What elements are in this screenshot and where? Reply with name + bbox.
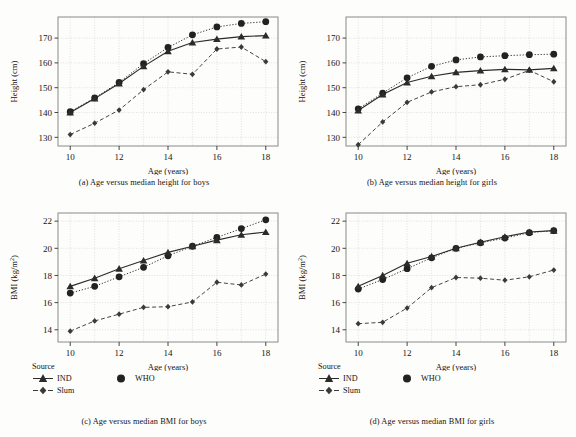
svg-text:16: 16 — [212, 348, 222, 358]
legend-label-who: WHO — [135, 374, 155, 383]
svg-text:Height (cm): Height (cm) — [297, 60, 307, 102]
svg-text:BMI (kg/m2): BMI (kg/m2) — [297, 255, 307, 300]
svg-text:18: 18 — [43, 271, 53, 281]
svg-text:22: 22 — [43, 216, 52, 226]
svg-text:14: 14 — [164, 348, 174, 358]
legend-item-ind[interactable]: IND — [318, 372, 396, 384]
legend-title: Source — [32, 362, 155, 371]
svg-text:20: 20 — [43, 244, 53, 254]
chart-b-svg: 1301401501601701012141618Age (years)Heig… — [288, 0, 576, 175]
svg-text:130: 130 — [39, 133, 53, 143]
circle-marker-icon — [110, 373, 132, 384]
svg-text:18: 18 — [261, 348, 271, 358]
svg-text:Age (years): Age (years) — [148, 166, 188, 175]
diamond-marker-icon — [318, 385, 340, 396]
panel-c-caption: (c) Age versus median BMI for boys — [0, 417, 288, 426]
svg-text:140: 140 — [39, 108, 53, 118]
chart-c-svg: 14161820221012141618Age (years)BMI (kg/m… — [0, 196, 288, 371]
legend-item-slum[interactable]: Slum — [318, 384, 396, 396]
legend-left: Source IND Slum — [32, 362, 155, 396]
svg-text:18: 18 — [549, 152, 559, 162]
legend-item-ind[interactable]: IND — [32, 372, 110, 384]
triangle-marker-icon — [32, 373, 54, 384]
legend-label-ind: IND — [57, 374, 72, 383]
triangle-marker-icon — [318, 373, 340, 384]
svg-text:12: 12 — [115, 152, 124, 162]
svg-text:160: 160 — [327, 58, 341, 68]
svg-text:12: 12 — [403, 348, 412, 358]
panel-b-caption: (b) Age versus median height for girls — [288, 178, 576, 187]
svg-text:16: 16 — [500, 348, 510, 358]
svg-text:150: 150 — [39, 83, 53, 93]
svg-text:14: 14 — [452, 152, 462, 162]
svg-text:14: 14 — [452, 348, 462, 358]
svg-text:10: 10 — [66, 348, 76, 358]
panel-d-caption: (d) Age versus median BMI for girls — [288, 417, 576, 426]
chart-a-svg: 1301401501601701012141618Age (years)Heig… — [0, 0, 288, 175]
legend-title: Source — [318, 362, 441, 371]
svg-text:16: 16 — [43, 298, 53, 308]
figure-four-panel-growth-charts: 1301401501601701012141618Age (years)Heig… — [0, 0, 576, 437]
legend-item-who[interactable]: WHO — [110, 372, 155, 384]
panel-b-height-girls: 1301401501601701012141618Age (years)Heig… — [288, 0, 576, 196]
legend-label-who: WHO — [421, 374, 441, 383]
legend-label-slum: Slum — [343, 386, 360, 395]
svg-text:BMI (kg/m2): BMI (kg/m2) — [9, 255, 19, 300]
svg-text:12: 12 — [403, 152, 412, 162]
svg-text:160: 160 — [39, 58, 53, 68]
svg-text:150: 150 — [327, 83, 341, 93]
svg-text:170: 170 — [327, 33, 341, 43]
svg-text:14: 14 — [43, 325, 53, 335]
legend-label-slum: Slum — [57, 386, 74, 395]
chart-d-svg: 14161820221012141618Age (years)BMI (kg/m… — [288, 196, 576, 371]
diamond-marker-icon — [32, 385, 54, 396]
panel-a-height-boys: 1301401501601701012141618Age (years)Heig… — [0, 0, 288, 196]
legend-right: Source IND Slum — [318, 362, 441, 396]
svg-text:140: 140 — [327, 108, 341, 118]
svg-text:14: 14 — [164, 152, 174, 162]
svg-text:14: 14 — [331, 325, 341, 335]
svg-text:Age (years): Age (years) — [436, 362, 476, 371]
svg-text:16: 16 — [500, 152, 510, 162]
svg-text:Age (years): Age (years) — [436, 166, 476, 175]
svg-text:10: 10 — [354, 348, 364, 358]
svg-text:10: 10 — [354, 152, 364, 162]
svg-text:12: 12 — [115, 348, 124, 358]
legend-item-slum[interactable]: Slum — [32, 384, 110, 396]
svg-text:18: 18 — [261, 152, 271, 162]
svg-text:20: 20 — [331, 244, 341, 254]
svg-text:16: 16 — [331, 298, 341, 308]
svg-text:22: 22 — [331, 216, 340, 226]
panel-a-caption: (a) Age versus median height for boys — [0, 178, 288, 187]
panel-d-bmi-girls: 14161820221012141618Age (years)BMI (kg/m… — [288, 196, 576, 437]
svg-text:18: 18 — [331, 271, 341, 281]
panel-c-bmi-boys: 14161820221012141618Age (years)BMI (kg/m… — [0, 196, 288, 437]
circle-marker-icon — [396, 373, 418, 384]
svg-text:130: 130 — [327, 133, 341, 143]
svg-text:170: 170 — [39, 33, 53, 43]
legend-label-ind: IND — [343, 374, 358, 383]
svg-text:Height (cm): Height (cm) — [9, 60, 19, 102]
svg-text:10: 10 — [66, 152, 76, 162]
svg-text:18: 18 — [549, 348, 559, 358]
svg-text:16: 16 — [212, 152, 222, 162]
legend-item-who[interactable]: WHO — [396, 372, 441, 384]
